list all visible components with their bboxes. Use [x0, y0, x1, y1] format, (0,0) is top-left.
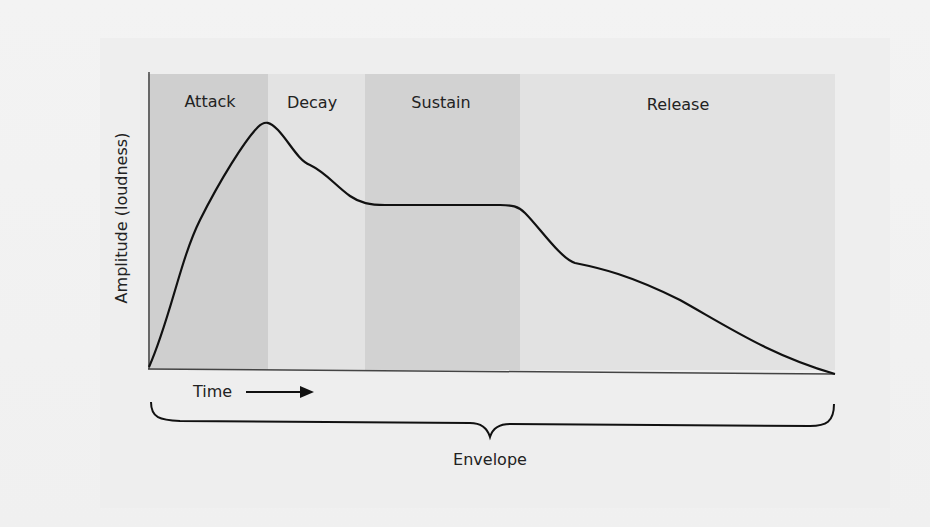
phase-label-sustain: Sustain: [411, 93, 470, 112]
envelope-brace: [151, 402, 834, 437]
phase-label-release: Release: [647, 95, 710, 114]
time-arrow-icon: [300, 386, 314, 398]
x-axis-label: Time: [192, 382, 232, 401]
envelope-label: Envelope: [453, 450, 527, 469]
phase-band-release: [520, 74, 835, 370]
figure-page: Attack Decay Sustain Release Amplitude (…: [0, 0, 930, 527]
y-axis-label: Amplitude (loudness): [112, 133, 131, 304]
phase-band-attack: [148, 74, 268, 370]
phase-band-decay: [268, 74, 365, 370]
adsr-envelope-diagram: Attack Decay Sustain Release Amplitude (…: [0, 0, 930, 527]
phase-band-sustain: [365, 74, 520, 370]
phase-label-attack: Attack: [184, 92, 236, 111]
phase-label-decay: Decay: [287, 93, 337, 112]
